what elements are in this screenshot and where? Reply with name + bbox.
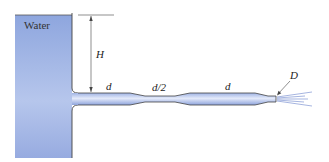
pipe3-diameter-label: d (225, 80, 231, 92)
height-label: H (96, 48, 104, 60)
tank-label: Water (24, 19, 50, 31)
nozzle-diameter-label: D (290, 69, 298, 81)
pipe (72, 93, 276, 105)
pipe2-diameter-label: d/2 (152, 81, 166, 93)
pipe1-diameter-label: d (106, 80, 112, 92)
water-jet (277, 92, 312, 106)
water-tank (15, 15, 72, 158)
